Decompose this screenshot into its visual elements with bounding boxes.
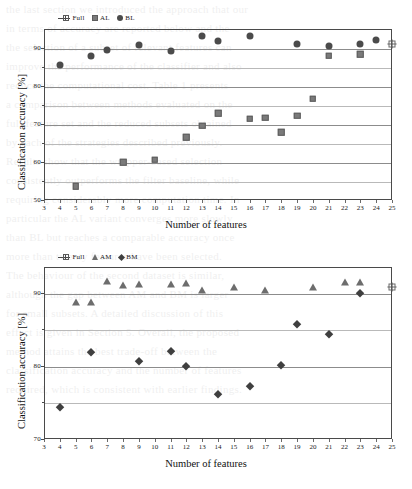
- y-tick-mark-minor: [42, 143, 44, 144]
- x-tick-label: 13: [199, 204, 206, 212]
- plot-area-bottom: [44, 267, 392, 439]
- x-tick-label: 20: [309, 204, 316, 212]
- x-tick-label: 5: [74, 204, 78, 212]
- x-tick-label: 11: [167, 204, 174, 212]
- x-tick-mark: [123, 200, 124, 203]
- figure-top: FullALBL 5060708090 34567891011121314151…: [0, 0, 412, 245]
- data-point-full: [388, 40, 397, 49]
- x-tick-mark: [171, 200, 172, 203]
- y-tick-mark: [41, 86, 45, 87]
- x-tick-mark: [76, 439, 77, 442]
- x-tick-label: 24: [373, 204, 380, 212]
- legend-marker-circle-icon: [117, 15, 123, 21]
- x-tick-mark: [313, 200, 314, 203]
- data-point-bl: [135, 42, 142, 49]
- x-tick-label: 14: [215, 443, 222, 451]
- legend-label: BM: [126, 254, 137, 261]
- gridline-minor: [45, 106, 391, 107]
- x-tick-label: 8: [121, 443, 125, 451]
- x-tick-mark: [139, 439, 140, 442]
- x-tick-mark: [297, 200, 298, 203]
- gridline-major: [45, 87, 391, 88]
- legend-label: Full: [73, 254, 85, 261]
- x-axis-title-top: Number of features: [0, 219, 412, 230]
- x-tick-mark: [234, 200, 235, 203]
- x-tick-label: 18: [278, 443, 285, 451]
- legend-marker-square-icon: [92, 15, 98, 21]
- legend-entry-am: AM: [92, 254, 112, 261]
- legend-marker-full-icon: [58, 253, 70, 261]
- x-tick-mark: [329, 200, 330, 203]
- x-tick-mark: [186, 439, 187, 442]
- x-tick-label: 15: [230, 204, 237, 212]
- legend-label: BL: [125, 15, 134, 22]
- x-tick-label: 13: [199, 443, 206, 451]
- y-tick-label: 70: [34, 435, 41, 443]
- y-tick-mark: [41, 366, 45, 367]
- gridline-major: [45, 294, 391, 295]
- gridline-major: [45, 163, 391, 164]
- legend-label: AM: [100, 254, 112, 261]
- x-tick-label: 8: [121, 204, 125, 212]
- x-tick-label: 3: [42, 204, 46, 212]
- y-tick-mark: [41, 124, 45, 125]
- figure-bottom: FullAMBM 708090 345678910111213141516171…: [0, 245, 412, 489]
- y-tick-label: 80: [34, 82, 41, 90]
- data-point-al: [72, 183, 79, 190]
- data-point-bl: [246, 33, 253, 40]
- x-tick-mark: [202, 200, 203, 203]
- x-tick-label: 16: [246, 204, 253, 212]
- x-tick-label: 6: [90, 443, 94, 451]
- data-point-am: [167, 280, 175, 287]
- data-point-bl: [104, 47, 111, 54]
- data-point-al: [278, 129, 285, 136]
- gridline-major: [45, 367, 391, 368]
- data-point-al: [310, 95, 317, 102]
- x-tick-mark: [376, 439, 377, 442]
- x-tick-label: 25: [389, 443, 396, 451]
- x-tick-label: 21: [325, 204, 332, 212]
- data-point-bl: [357, 41, 364, 48]
- full-marker-box: [389, 283, 396, 290]
- x-tick-mark: [313, 439, 314, 442]
- x-tick-mark: [44, 439, 45, 442]
- x-tick-label: 25: [389, 204, 396, 212]
- x-tick-mark: [250, 439, 251, 442]
- legend-entry-full: Full: [58, 253, 85, 261]
- data-point-bl: [325, 43, 332, 50]
- legend-entry-full: Full: [58, 14, 85, 22]
- x-tick-label: 9: [137, 204, 141, 212]
- data-point-am: [135, 280, 143, 287]
- data-point-al: [325, 53, 332, 60]
- x-tick-mark: [202, 439, 203, 442]
- x-tick-label: 12: [183, 443, 190, 451]
- legend-marker-triangle-icon: [92, 254, 98, 260]
- x-tick-mark: [265, 200, 266, 203]
- x-tick-label: 17: [262, 443, 269, 451]
- data-point-full: [388, 282, 397, 291]
- y-tick-label: 50: [34, 196, 41, 204]
- x-tick-mark: [392, 200, 393, 203]
- x-axis-title-bottom: Number of features: [0, 458, 412, 469]
- x-tick-label: 19: [294, 204, 301, 212]
- data-point-bl: [167, 48, 174, 55]
- x-tick-label: 7: [106, 443, 110, 451]
- x-tick-mark: [345, 439, 346, 442]
- data-point-am: [198, 287, 206, 294]
- x-tick-mark: [218, 439, 219, 442]
- x-tick-mark: [250, 200, 251, 203]
- data-point-al: [183, 134, 190, 141]
- y-tick-mark: [41, 162, 45, 163]
- data-point-al: [151, 156, 158, 163]
- gridline-minor: [45, 68, 391, 69]
- data-point-am: [356, 278, 364, 285]
- x-tick-label: 19: [294, 443, 301, 451]
- gridline-minor: [45, 182, 391, 183]
- data-point-al: [294, 112, 301, 119]
- gridline-minor: [45, 330, 391, 331]
- x-tick-mark: [360, 200, 361, 203]
- x-tick-mark: [376, 200, 377, 203]
- data-point-al: [120, 159, 127, 166]
- x-tick-label: 23: [357, 204, 364, 212]
- data-point-al: [246, 115, 253, 122]
